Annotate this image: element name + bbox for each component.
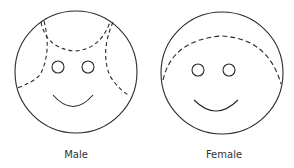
faces-diagram [0, 0, 294, 168]
female-label: Female [184, 149, 264, 160]
female-smile [194, 100, 238, 111]
male-face [15, 11, 137, 133]
female-right-eye [223, 64, 235, 76]
male-smile [53, 95, 93, 107]
male-right-eye [82, 61, 94, 73]
female-face [161, 12, 283, 134]
male-hair-dashes [17, 21, 130, 96]
female-head-outline [161, 12, 283, 134]
male-left-eye [52, 61, 64, 73]
female-left-eye [192, 64, 204, 76]
male-head-outline [15, 11, 137, 133]
male-label: Male [36, 149, 116, 160]
female-hair-dashes [163, 36, 281, 84]
